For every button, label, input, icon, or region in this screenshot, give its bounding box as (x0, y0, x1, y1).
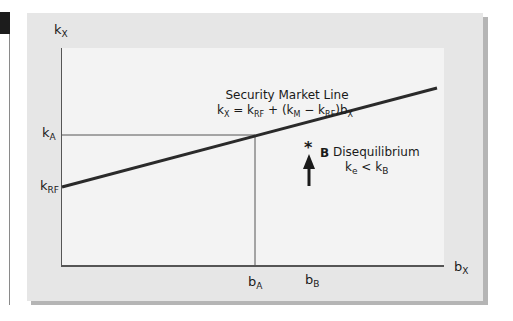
chart-lines (0, 0, 513, 321)
y-axis-label: kX (54, 23, 68, 39)
disequilibrium-condition: ke < kB (345, 161, 388, 176)
point-b-label: B (320, 147, 329, 159)
x-tick-ba: bA (248, 275, 262, 291)
disequilibrium-label: Disequilibrium (333, 146, 420, 158)
y-tick-krf: kRF (40, 179, 59, 195)
sml-title: Security Market Line (202, 89, 372, 101)
x-axis-label: bX (454, 260, 468, 276)
x-tick-bb: bB (305, 273, 319, 289)
sml-equation: kX = kRF + (kM − kRF)bX (185, 104, 385, 119)
y-tick-ka: kA (42, 126, 56, 142)
point-b-marker: * (304, 140, 312, 156)
